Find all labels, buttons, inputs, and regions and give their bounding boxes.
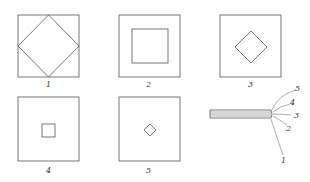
leader-label-3: 3 [294, 111, 299, 120]
bundle-tip [271, 110, 272, 118]
leader-label-4: 4 [289, 98, 295, 107]
panel-1: 1 [18, 15, 79, 89]
panel-5: 5 [119, 97, 180, 175]
panel-4: 4 [18, 97, 79, 175]
outer-square [18, 15, 79, 77]
inner-diamond [235, 31, 267, 63]
outer-square [119, 15, 180, 77]
layer-bundle: 5 4 3 2 1 [210, 84, 300, 165]
leader-line-3 [273, 114, 291, 115]
panel-label: 4 [45, 166, 51, 175]
panel-3: 3 [220, 15, 281, 89]
outer-square [119, 97, 180, 161]
inner-square [42, 124, 55, 137]
panel-label: 1 [46, 80, 51, 89]
outer-square [220, 15, 281, 77]
panel-label: 3 [248, 80, 253, 89]
leader-label-5: 5 [295, 84, 300, 93]
leader-label-2: 2 [285, 124, 291, 133]
inner-diamond [18, 15, 79, 77]
panel-label: 2 [145, 80, 151, 89]
inner-square [132, 29, 168, 63]
outer-square [18, 97, 79, 161]
panel-2: 2 [119, 15, 180, 89]
leader-label-1: 1 [281, 156, 286, 165]
figure-canvas: 1 2 3 4 5 5 4 3 [0, 0, 310, 182]
panel-label: 5 [146, 166, 151, 175]
leader-line-4 [273, 104, 290, 112]
leader-line-1 [271, 119, 283, 155]
leader-line-2 [273, 116, 287, 125]
inner-diamond [144, 124, 156, 136]
